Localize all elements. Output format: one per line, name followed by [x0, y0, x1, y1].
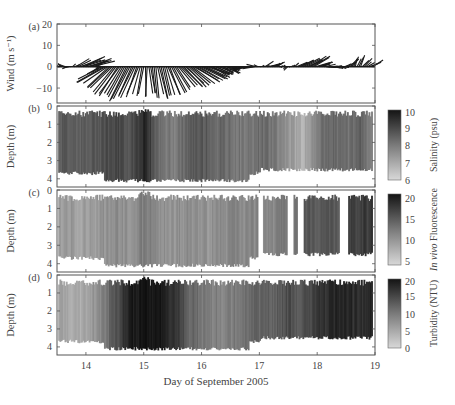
y-tick-label: 20 [42, 19, 52, 30]
colorbar-tick-label: 20 [405, 193, 415, 204]
colorbar-tick-label: 10 [405, 309, 415, 320]
y-tick-label: 2 [47, 305, 52, 316]
colorbar-tick-label: 5 [405, 256, 410, 267]
y-tick-label: −10 [36, 83, 52, 94]
y-tick-label: 4 [47, 173, 52, 184]
y-tick-label: 4 [47, 341, 52, 352]
colorbar-tick-label: 20 [405, 276, 415, 287]
colorbar-tick-label: 15 [405, 214, 415, 225]
y-tick-label: 2 [47, 137, 52, 148]
colorbar-label: Turbidity (NTU) [428, 280, 440, 347]
x-tick-label: 16 [197, 360, 207, 371]
y-tick-label: 10 [42, 40, 52, 51]
colorbar-tick-label: 6 [405, 175, 410, 186]
y-tick-label: 1 [47, 287, 52, 298]
x-tick-label: 18 [312, 360, 322, 371]
panel-c: (c)Depth (m)012342015105In vivo Fluoresc… [5, 185, 439, 273]
colorbar-tick-label: 15 [405, 291, 415, 302]
panel-label: (b) [28, 103, 40, 115]
colorbar-tick-label: 8 [405, 140, 410, 151]
y-tick-label: 2 [47, 221, 52, 232]
panel-label: (a) [28, 21, 39, 33]
x-tick-label: 17 [254, 360, 264, 371]
x-axis-label: Day of September 2005 [164, 375, 269, 387]
x-tick-label: 14 [81, 360, 91, 371]
y-axis-label: Depth (m) [5, 124, 17, 168]
colorbar-tick-label: 5 [405, 326, 410, 337]
x-tick-label: 19 [370, 360, 380, 371]
colorbar-tick-label: 10 [405, 235, 415, 246]
colorbar: 2015105In vivo Fluorescence [388, 188, 439, 272]
panel-a: (a)Wind (m s⁻¹)20100−10 [5, 19, 383, 104]
y-axis-label: Wind (m s⁻¹) [5, 35, 17, 92]
colorbar-tick-label: 7 [405, 158, 410, 169]
colorbar: 109876Salinity (psu) [388, 107, 440, 186]
y-tick-label: 0 [47, 61, 52, 72]
y-tick-label: 0 [47, 101, 52, 112]
colorbar-tick-label: 0 [405, 343, 410, 354]
y-axis-label: Depth (m) [5, 293, 17, 337]
y-tick-label: 1 [47, 203, 52, 214]
y-tick-label: 3 [47, 155, 52, 166]
colorbar-label: In vivo Fluorescence [428, 188, 439, 272]
colorbar-label: Salinity (psu) [428, 118, 440, 172]
y-tick-label: 4 [47, 258, 52, 269]
y-tick-label: 0 [47, 185, 52, 196]
colorbar: 20151050Turbidity (NTU) [388, 276, 440, 354]
y-tick-label: 3 [47, 323, 52, 334]
panel-d: (d)Depth (m)0123420151050Turbidity (NTU) [5, 270, 440, 356]
panel-b: (b)Depth (m)01234109876Salinity (psu) [5, 101, 440, 188]
y-tick-label: 1 [47, 119, 52, 130]
colorbar-tick-label: 9 [405, 123, 410, 134]
y-tick-label: 3 [47, 240, 52, 251]
panel-label: (c) [28, 187, 39, 199]
panel-label: (d) [28, 272, 40, 284]
x-tick-label: 15 [139, 360, 149, 371]
y-tick-label: 0 [47, 270, 52, 281]
y-axis-label: Depth (m) [5, 209, 17, 253]
colorbar-tick-label: 10 [405, 107, 415, 118]
figure: (a)Wind (m s⁻¹)20100−10(b)Depth (m)01234… [0, 0, 455, 405]
